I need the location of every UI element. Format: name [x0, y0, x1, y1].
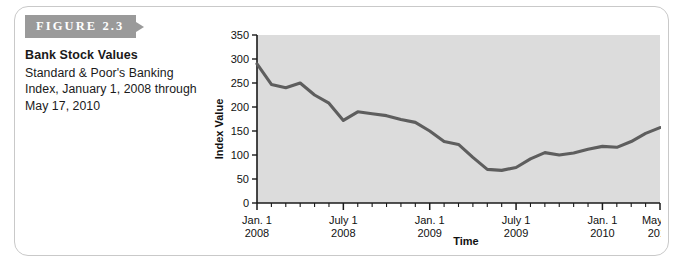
- x-tick-label-year: 2009: [417, 227, 441, 239]
- y-tick-label: 250: [231, 77, 249, 89]
- y-tick-label: 200: [231, 101, 249, 113]
- plot-background: [257, 35, 660, 203]
- x-tick-label: Jan. 1: [587, 214, 617, 226]
- x-tick-label-year: 2008: [331, 227, 355, 239]
- x-tick-label: Jan. 1: [415, 214, 445, 226]
- x-tick-label: Jan. 1: [242, 214, 272, 226]
- x-tick-label: July 1: [329, 214, 358, 226]
- y-axis-label: Index Value: [213, 99, 225, 160]
- x-tick-label-year: 2009: [504, 227, 528, 239]
- x-tick-label-year: 2008: [245, 227, 269, 239]
- y-tick-label: 50: [237, 173, 249, 185]
- y-tick-label: 100: [231, 149, 249, 161]
- y-axis: 050100150200250300350: [231, 29, 257, 209]
- figure-title: Bank Stock Values: [25, 48, 205, 64]
- y-tick-label: 0: [243, 197, 249, 209]
- caption-block: FIGURE 2.3 Bank Stock Values Standard & …: [25, 15, 205, 114]
- x-axis: Jan. 12008July 12008Jan. 12009July 12009…: [242, 203, 661, 239]
- line-chart: 050100150200250300350 Jan. 12008July 120…: [211, 17, 661, 252]
- x-tick-label: July 1: [502, 214, 531, 226]
- figure-number-tag: FIGURE 2.3: [25, 15, 136, 38]
- y-tick-label: 350: [231, 29, 249, 41]
- figure-card: FIGURE 2.3 Bank Stock Values Standard & …: [14, 6, 669, 256]
- x-tick-label-year: 2010: [590, 227, 614, 239]
- x-axis-label: Time: [453, 235, 478, 247]
- x-tick-label: May 17: [642, 214, 661, 226]
- figure-subtitle: Standard & Poor's Banking Index, January…: [25, 65, 205, 114]
- y-tick-label: 150: [231, 125, 249, 137]
- y-tick-label: 300: [231, 53, 249, 65]
- x-tick-label-year: 2010: [648, 227, 661, 239]
- chart-area: 050100150200250300350 Jan. 12008July 120…: [211, 17, 661, 252]
